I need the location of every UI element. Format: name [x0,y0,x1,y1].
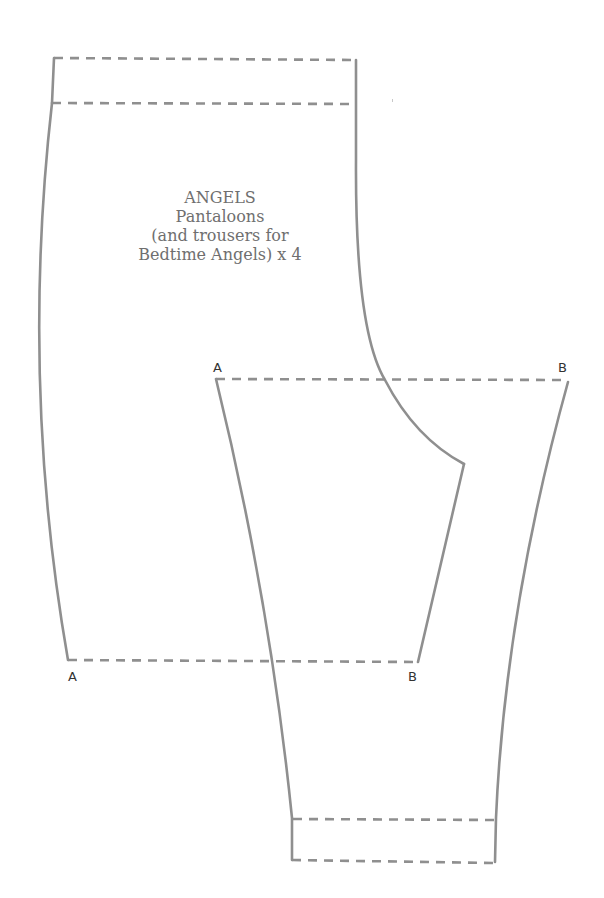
pattern-label: ANGELS Pantaloons (and trousers for Bedt… [120,188,320,264]
waistband-stitch-line [52,103,356,104]
cuff-stitch-line [293,819,496,820]
sewing-pattern-diagram [0,0,604,898]
marker-upper-left-A: A [213,361,222,375]
pattern-title: ANGELS [120,188,320,207]
inner-leg-seam [418,464,464,662]
waistband-top-fold-line [54,58,356,60]
join-line-upper-A-B [68,660,418,662]
marker-lower-left-A: A [68,670,77,684]
pattern-piece-lower [216,379,568,863]
lower-left-leg-seam [216,379,292,860]
pattern-subtitle: Pantaloons [120,207,320,226]
pattern-piece-upper [39,58,464,662]
cuff-bottom-fold-line [292,860,495,863]
outer-side-seam [39,103,68,660]
waistband-left-edge [52,58,54,103]
marker-lower-right-B: B [408,670,417,684]
pattern-note-line-1: (and trousers for [120,226,320,245]
marker-upper-right-B: B [558,361,567,375]
stray-mark [392,99,393,102]
crotch-curve-seam [356,60,464,464]
join-line-lower-A-B [216,379,566,380]
lower-right-leg-seam [495,382,568,862]
pattern-note-line-2: Bedtime Angels) x 4 [120,245,320,264]
